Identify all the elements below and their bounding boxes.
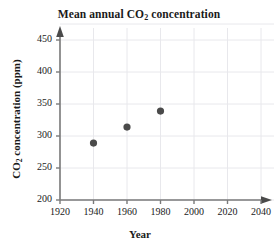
- x-tick-label: 1920: [43, 206, 77, 217]
- y-tick-label: 350: [22, 97, 52, 108]
- data-point: [157, 107, 164, 114]
- y-tick-label: 200: [22, 193, 52, 204]
- y-axis-title-subscript: 2: [15, 158, 24, 162]
- y-tick-label: 300: [22, 129, 52, 140]
- x-tick-label: 1940: [77, 206, 111, 217]
- y-tick-label: 250: [22, 161, 52, 172]
- x-tick-label: 2020: [211, 206, 245, 217]
- x-tick-label: 2000: [177, 206, 211, 217]
- x-tick-label: 2040: [244, 206, 278, 217]
- gridlines: [60, 24, 274, 200]
- data-point: [90, 139, 97, 146]
- y-axis-title-after: concentration (ppm): [10, 59, 22, 158]
- x-tick-label: 1960: [110, 206, 144, 217]
- y-axis-arrow-icon: [56, 26, 64, 37]
- y-tick-label: 400: [22, 65, 52, 76]
- chart-figure: Mean annual CO2 concentration 2002503003…: [0, 0, 278, 251]
- y-axis-title: CO2 concentration (ppm): [10, 39, 24, 199]
- x-axis-title: Year: [40, 228, 240, 240]
- x-axis-arrow-icon: [261, 196, 272, 204]
- data-point: [123, 123, 130, 130]
- axis-ticks: [56, 40, 261, 204]
- x-tick-label: 1980: [144, 206, 178, 217]
- y-axis-title-before: CO: [10, 162, 22, 179]
- axis-lines: [56, 26, 272, 204]
- y-tick-label: 450: [22, 33, 52, 44]
